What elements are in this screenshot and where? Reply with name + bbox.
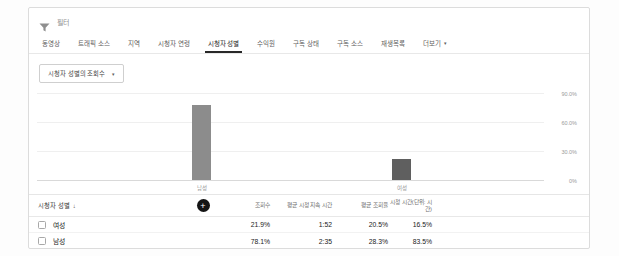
x-axis-label-female: 여성	[382, 184, 422, 192]
chevron-down-icon: ▾	[112, 71, 115, 77]
tab-more[interactable]: 더보기▾	[414, 32, 456, 53]
column-header-views[interactable]: 조회수	[228, 202, 270, 209]
cell-watch-time: 16.5%	[388, 221, 432, 228]
cell-watch-time: 83.5%	[388, 238, 432, 245]
row-label: 남성	[53, 236, 65, 246]
gender-bar-chart: 남성 여성 0% 30.0% 60.0% 90.0%	[36, 88, 580, 194]
cell-avg-duration: 1:52	[270, 221, 332, 228]
y-tick-30: 30.0%	[547, 149, 577, 155]
gender-table: 시청자 성별 ↓ + 조회수 평균 시청 지속 시간 평균 조회율 시청 시간(…	[29, 194, 589, 249]
gridline-60	[37, 122, 544, 123]
column-header-watch-time[interactable]: 시청 시간(단위: 시간)	[388, 199, 432, 213]
dimension-tabs: 동영상 트래픽 소스 지역 시청자 연령 시청자 성별 수익원 구독 상태 구독…	[29, 32, 589, 54]
table-header-row: 시청자 성별 ↓ + 조회수 평균 시청 지속 시간 평균 조회율 시청 시간(…	[29, 195, 589, 217]
y-tick-0: 0%	[547, 178, 577, 184]
tab-geography[interactable]: 지역	[119, 32, 149, 53]
cell-avg-percentage: 20.5%	[332, 221, 388, 228]
column-header-avg-duration[interactable]: 평균 시청 지속 시간	[270, 202, 332, 209]
tab-playlists[interactable]: 재생목록	[372, 32, 414, 53]
chevron-down-icon: ▾	[444, 40, 447, 46]
bar-male[interactable]	[192, 105, 211, 180]
add-metric-button[interactable]: +	[197, 199, 210, 212]
tab-revenue-source[interactable]: 수익원	[248, 32, 284, 53]
cell-views: 21.9%	[228, 221, 270, 228]
metric-picker-row: 시청자 성별의 조회수 ▾	[29, 54, 589, 80]
y-tick-60: 60.0%	[547, 120, 577, 126]
bar-female[interactable]	[392, 159, 411, 180]
table-row-female[interactable]: 여성 21.9% 1:52 20.5% 16.5%	[29, 217, 589, 233]
gridline-0-baseline	[37, 180, 544, 181]
sort-arrow-icon: ↓	[73, 203, 76, 209]
x-axis-label-male: 남성	[182, 184, 222, 192]
row-checkbox[interactable]	[38, 221, 46, 229]
row-label: 여성	[53, 220, 65, 230]
metric-picker-label: 시청자 성별의 조회수	[48, 69, 106, 78]
column-header-avg-percentage[interactable]: 평균 조회율	[332, 202, 388, 209]
filter-bar: 필터	[29, 8, 589, 32]
cell-avg-percentage: 28.3%	[332, 238, 388, 245]
column-header-gender[interactable]: 시청자 성별	[38, 201, 70, 210]
cell-avg-duration: 2:35	[270, 238, 332, 245]
tab-videos[interactable]: 동영상	[33, 32, 69, 53]
metric-picker-dropdown[interactable]: 시청자 성별의 조회수 ▾	[39, 64, 124, 83]
tab-viewer-age[interactable]: 시청자 연령	[149, 32, 199, 53]
row-checkbox[interactable]	[38, 237, 46, 245]
filter-funnel-icon[interactable]	[39, 18, 50, 27]
chart-plot-area: 남성 여성	[37, 91, 544, 181]
filter-label[interactable]: 필터	[57, 17, 70, 27]
gridline-90	[37, 93, 544, 94]
tab-subscription-source[interactable]: 구독 소스	[328, 32, 372, 53]
analytics-card: 필터 동영상 트래픽 소스 지역 시청자 연령 시청자 성별 수익원 구독 상태…	[28, 7, 590, 249]
gridline-30	[37, 151, 544, 152]
cell-views: 78.1%	[228, 238, 270, 245]
table-row-male[interactable]: 남성 78.1% 2:35 28.3% 83.5%	[29, 233, 589, 249]
tab-viewer-gender[interactable]: 시청자 성별	[199, 32, 249, 53]
tab-subscription-status[interactable]: 구독 상태	[284, 32, 328, 53]
y-tick-90: 90.0%	[547, 91, 577, 97]
tab-traffic-source[interactable]: 트래픽 소스	[69, 32, 119, 53]
